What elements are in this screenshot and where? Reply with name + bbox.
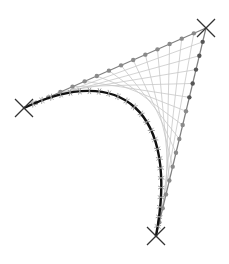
curve-tick: [151, 139, 158, 140]
curve-tick: [51, 94, 52, 101]
dot-edge-b: [200, 40, 204, 44]
envelope-line: [48, 56, 199, 98]
dot-edge-a: [192, 31, 196, 35]
bezier-diagram: [0, 0, 229, 264]
dot-edge-b: [194, 67, 198, 71]
dot-edge-b: [197, 54, 201, 58]
dot-edge-a: [119, 63, 123, 67]
dot-edge-a: [131, 58, 135, 62]
dot-edge-a: [95, 74, 99, 78]
dot-edge-a: [155, 47, 159, 51]
dot-edge-b: [167, 178, 171, 182]
dot-edge-b: [180, 123, 184, 127]
dot-edge-b: [174, 151, 178, 155]
envelope-line: [73, 83, 193, 86]
curve-tick: [143, 121, 150, 122]
control-point-x-icon-p1: [197, 19, 215, 37]
dot-edge-a: [70, 84, 74, 88]
dot-edge-b: [184, 109, 188, 113]
dot-edge-b: [170, 164, 174, 168]
dot-edge-b: [164, 192, 168, 196]
dot-edge-b: [190, 81, 194, 85]
dot-edge-a: [180, 36, 184, 40]
control-edge-p1-p2: [156, 28, 206, 236]
dot-edge-a: [143, 52, 147, 56]
bezier-curve: [24, 91, 161, 236]
curve-tick-marks: [30, 88, 164, 229]
dot-edge-b: [187, 95, 191, 99]
control-polygon: [24, 28, 206, 236]
curve-path: [24, 91, 161, 236]
control-point-x-icon-p0: [15, 99, 33, 117]
envelope-line: [163, 39, 182, 209]
curve-tick: [42, 97, 43, 104]
control-point-markers: [15, 19, 215, 245]
dot-edge-b: [177, 137, 181, 141]
dot-edge-a: [167, 42, 171, 46]
dot-edge-a: [107, 68, 111, 72]
envelope-lines: [36, 33, 203, 222]
dot-edge-a: [82, 79, 86, 83]
